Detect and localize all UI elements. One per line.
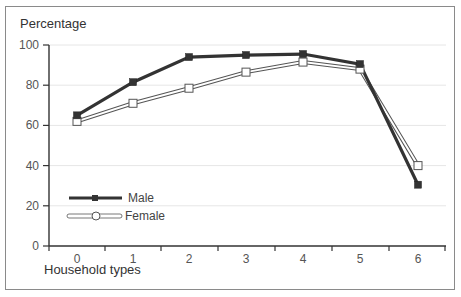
female-marker — [299, 58, 307, 66]
x-tick-label: 0 — [74, 252, 81, 266]
x-tick-label: 2 — [186, 252, 193, 266]
x-tick-label: 1 — [130, 252, 137, 266]
y-tick-label: 100 — [19, 38, 39, 52]
male-marker — [243, 52, 250, 59]
y-tick-label: 40 — [26, 159, 40, 173]
axes: 0204060801000123456 — [19, 38, 446, 266]
legend-male-label: Male — [128, 191, 154, 205]
x-tick-label: 4 — [300, 252, 307, 266]
female-marker — [185, 84, 193, 92]
male-marker — [415, 181, 422, 188]
y-tick-label: 20 — [26, 199, 40, 213]
legend: Male Female — [67, 191, 165, 223]
y-tick-label: 80 — [26, 78, 40, 92]
line-chart: 0204060801000123456 Male Female — [0, 0, 461, 297]
x-tick-label: 5 — [357, 252, 364, 266]
x-tick-label: 6 — [415, 252, 422, 266]
female-marker — [242, 68, 250, 76]
y-tick-label: 60 — [26, 118, 40, 132]
legend-female-label: Female — [125, 209, 165, 223]
male-marker — [130, 79, 137, 86]
legend-male-marker — [92, 195, 98, 201]
series-lines — [73, 51, 422, 189]
male-marker — [300, 51, 307, 58]
male-marker — [74, 112, 81, 119]
male-marker — [357, 61, 364, 68]
x-tick-label: 3 — [243, 252, 250, 266]
female-marker — [414, 162, 422, 170]
y-tick-label: 0 — [32, 239, 39, 253]
male-marker — [186, 54, 193, 61]
female-marker — [129, 99, 137, 107]
legend-female-marker — [92, 212, 100, 220]
